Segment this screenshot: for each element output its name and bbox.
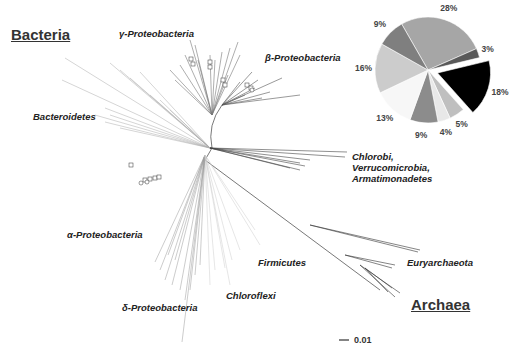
domain-label-bacteria: Bacteria	[11, 26, 70, 43]
pie-slice-label: 4%	[440, 127, 452, 137]
pie-slice-label: 5%	[456, 119, 468, 129]
clade-lower-fan-branches	[155, 155, 205, 342]
clade-label-delta: δ-Proteobacteria	[122, 302, 198, 313]
pie-slice-label: 16%	[355, 63, 372, 73]
clade-chlorobi-branches	[210, 148, 347, 170]
clade-label-firmicutes: Firmicutes	[258, 257, 306, 268]
sample-markers	[129, 57, 254, 185]
pie-slice-label: 18%	[492, 87, 509, 97]
clade-beta-branches	[222, 72, 300, 105]
clade-label-gamma: γ-Proteobacteria	[119, 28, 194, 39]
clade-firmicutes-branches	[205, 155, 260, 285]
clade-archaea-branches	[310, 225, 420, 297]
clade-label-alpha: α-Proteobacteria	[67, 229, 143, 240]
pie-slice-label: 9%	[415, 130, 427, 140]
clade-bacteroidetes-branches	[62, 58, 210, 148]
pie-slice-label: 3%	[482, 44, 494, 54]
pie-chart	[375, 17, 491, 123]
scale-bar-label: 0.01	[354, 335, 372, 345]
clade-label-chloroflexi: Chloroflexi	[226, 290, 276, 301]
clade-label-chlorobi-3: Armatimonadetes	[352, 173, 432, 184]
clade-label-euryarchaeota: Euryarchaeota	[407, 257, 473, 268]
pie-slice-label: 28%	[440, 3, 457, 13]
clade-label-chlorobi-1: Chlorobi,	[352, 151, 394, 162]
domain-label-archaea: Archaea	[411, 296, 470, 313]
clade-label-bacteroidetes: Bacteroidetes	[33, 111, 96, 122]
clade-label-beta: β-Proteobacteria	[265, 52, 341, 63]
pie-slice-label: 13%	[376, 113, 393, 123]
pie-slice-label: 9%	[374, 19, 386, 29]
clade-label-chlorobi-2: Verrucomicrobia,	[352, 162, 430, 173]
